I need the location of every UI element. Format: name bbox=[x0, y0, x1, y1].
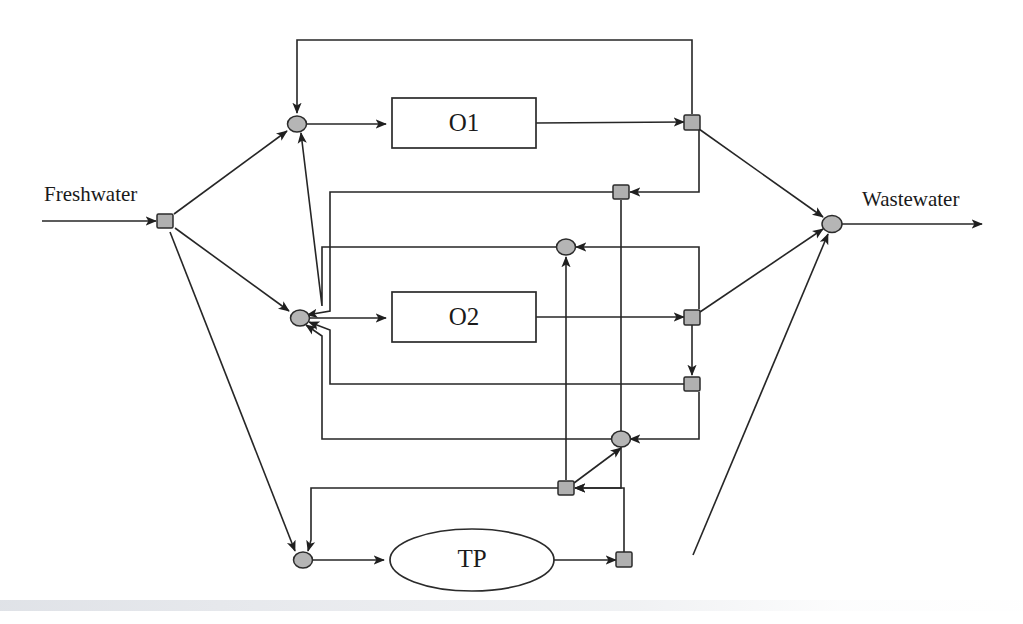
o2-outlet-splitter[interactable] bbox=[684, 310, 700, 325]
freshwater-to-o2-mixer bbox=[175, 228, 289, 311]
diagram-canvas: O1 O2 TP Freshwater Wastewater bbox=[0, 0, 1023, 624]
o1-to-wastewater bbox=[699, 129, 823, 217]
o2-reuse-to-upper-mixer bbox=[576, 247, 699, 309]
freshwater-to-o1-mixer bbox=[174, 131, 287, 214]
unit-o2-label: O2 bbox=[449, 303, 480, 330]
upper-reuse-to-o1-mixer bbox=[301, 133, 557, 306]
o2-to-wastewater bbox=[700, 229, 823, 312]
unit-layer: O1 O2 TP bbox=[390, 98, 554, 591]
freshwater-label: Freshwater bbox=[44, 182, 137, 206]
lower-recycle-splitter[interactable] bbox=[684, 377, 700, 391]
o1-inlet-mixer[interactable] bbox=[288, 116, 307, 132]
unit-tp-label: TP bbox=[457, 545, 486, 572]
o1-effluent bbox=[536, 122, 684, 123]
upper-reuse-mixer[interactable] bbox=[557, 239, 576, 255]
unit-o1-label: O1 bbox=[449, 109, 480, 136]
scan-artifact-band bbox=[0, 600, 1023, 611]
bottom-recycle-to-lower-mixer bbox=[574, 448, 621, 483]
o2-inlet-mixer[interactable] bbox=[291, 310, 310, 326]
o1-to-upper-recycle-splitter bbox=[630, 130, 699, 192]
tp-inlet-mixer[interactable] bbox=[294, 552, 313, 568]
wastewater-label: Wastewater bbox=[862, 187, 959, 211]
freshwater-to-tp-mixer bbox=[170, 232, 295, 551]
tp-to-wastewater bbox=[693, 234, 828, 555]
lower-reuse-mixer[interactable] bbox=[612, 431, 631, 447]
process-flow-diagram: O1 O2 TP Freshwater Wastewater bbox=[0, 0, 1023, 624]
bottom-recycle-splitter[interactable] bbox=[558, 481, 574, 495]
lower-recycle-to-lower-mixer bbox=[630, 392, 699, 439]
tp-recycle-to-bottom-splitter bbox=[575, 488, 624, 552]
freshwater-splitter[interactable] bbox=[157, 214, 173, 228]
o1-outlet-splitter[interactable] bbox=[684, 115, 700, 130]
label-layer: Freshwater Wastewater bbox=[44, 182, 959, 211]
wastewater-mixer[interactable] bbox=[822, 216, 842, 233]
upper-recycle-splitter[interactable] bbox=[613, 185, 629, 199]
tp-outlet-splitter[interactable] bbox=[616, 552, 632, 567]
